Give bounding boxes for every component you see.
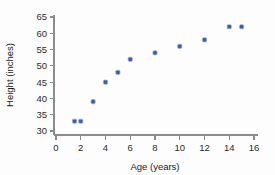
y-tick-label: 65: [36, 11, 47, 22]
data-point: [178, 44, 182, 48]
x-tick-label: 10: [174, 142, 185, 153]
plot-canvas: 3035404550556065 0246810121416 Age (year…: [0, 0, 275, 175]
data-point: [128, 57, 132, 61]
y-axis: 3035404550556065: [36, 11, 54, 136]
x-tick-label: 2: [78, 142, 83, 153]
x-tick-label: 0: [53, 142, 58, 153]
y-tick-label: 60: [36, 28, 47, 39]
x-axis-tick-labels: 0246810121416: [53, 142, 259, 153]
x-tick-label: 8: [152, 142, 157, 153]
y-tick-label: 35: [36, 109, 47, 120]
data-point: [91, 100, 95, 104]
data-point: [103, 80, 107, 84]
data-point: [240, 25, 244, 29]
data-point: [79, 119, 83, 123]
x-axis-title: Age (years): [130, 161, 179, 172]
data-point: [72, 119, 76, 123]
y-axis-tick-labels: 3035404550556065: [36, 11, 47, 136]
scatter-plot-figure: 3035404550556065 0246810121416 Age (year…: [0, 0, 275, 175]
y-axis-title: Height (inches): [4, 43, 15, 107]
x-tick-label: 16: [249, 142, 260, 153]
y-tick-label: 40: [36, 93, 47, 104]
y-axis-ticks: [50, 17, 54, 131]
x-tick-label: 6: [128, 142, 133, 153]
data-point: [227, 25, 231, 29]
data-point: [202, 38, 206, 42]
data-point: [116, 70, 120, 74]
y-tick-label: 50: [36, 60, 47, 71]
x-tick-label: 4: [103, 142, 108, 153]
x-tick-label: 14: [224, 142, 235, 153]
y-tick-label: 30: [36, 125, 47, 136]
y-tick-label: 55: [36, 44, 47, 55]
x-tick-label: 12: [199, 142, 210, 153]
data-point-series: [72, 25, 243, 124]
x-axis: 0246810121416: [53, 135, 259, 153]
data-point: [153, 51, 157, 55]
x-axis-ticks: [56, 135, 254, 140]
y-tick-label: 45: [36, 77, 47, 88]
